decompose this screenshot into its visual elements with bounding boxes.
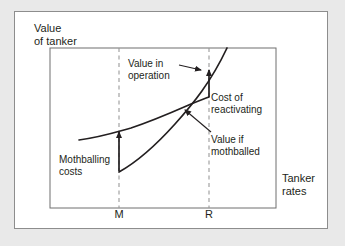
annotation-mothballing-costs-line1: Mothballing	[59, 154, 110, 165]
x-axis-title-line1: Tanker	[282, 172, 315, 184]
curve-value-if-mothballed	[79, 97, 209, 140]
annotation-cost-of-reactivating: Cost ofreactivating	[211, 92, 262, 116]
figure-card: Valueof tanker Tankerrates M R Value ino…	[14, 11, 328, 229]
x-axis-title: Tankerrates	[282, 172, 315, 198]
x-tick-label-m: M	[109, 208, 129, 221]
annotation-mothballing-costs-line2: costs	[59, 166, 82, 177]
y-axis-title-line2: of tanker	[34, 35, 77, 47]
annotation-value-if-mothballed-line1: Value if	[211, 134, 244, 145]
y-axis-title: Valueof tanker	[34, 22, 77, 48]
annotation-cost-of-reactivating-line1: Cost of	[211, 92, 243, 103]
value-if-mothballed-leader	[185, 110, 211, 132]
chart-stage: Valueof tanker Tankerrates M R Value ino…	[15, 12, 329, 230]
x-tick-label-r: R	[199, 208, 219, 221]
annotation-value-in-operation: Value inoperation	[128, 58, 170, 82]
annotation-mothballing-costs: Mothballingcosts	[59, 154, 110, 178]
annotation-cost-of-reactivating-line2: reactivating	[211, 104, 262, 115]
x-axis-title-line2: rates	[282, 185, 306, 197]
value-in-operation-leader	[179, 65, 201, 70]
annotation-value-if-mothballed: Value ifmothballed	[211, 134, 260, 158]
annotation-value-if-mothballed-line2: mothballed	[211, 146, 260, 157]
y-axis-title-line1: Value	[34, 22, 61, 34]
annotation-value-in-operation-line2: operation	[128, 70, 170, 81]
annotation-value-in-operation-line1: Value in	[128, 58, 163, 69]
